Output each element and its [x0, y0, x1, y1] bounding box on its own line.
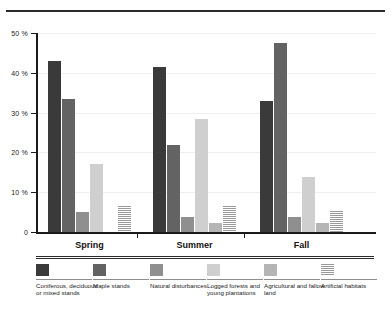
- x-axis-label-spring: Spring: [75, 240, 104, 250]
- y-tick-label-30: 30 %: [11, 110, 28, 117]
- legend-label: Artificial habitats: [321, 282, 383, 289]
- legend-item[interactable]: Coniferous, deciduous or mixed stands: [36, 264, 98, 297]
- y-axis-line: [36, 33, 38, 232]
- y-tick-label-20: 20 %: [11, 149, 28, 156]
- bar: [330, 211, 343, 232]
- bar: [223, 206, 236, 232]
- legend-swatch-icon: [150, 264, 163, 276]
- y-tick-20: [31, 152, 36, 153]
- bar: [62, 99, 75, 232]
- y-tick-label-50: 50 %: [11, 30, 28, 37]
- x-axis-group-separator: [137, 232, 138, 238]
- legend-label: Logged forests and young plantations: [207, 282, 269, 297]
- gridline-30: [38, 113, 376, 114]
- y-tick-label-0: 0: [24, 229, 28, 236]
- bar: [118, 206, 131, 232]
- bar: [76, 212, 89, 232]
- gridline-40: [38, 73, 376, 74]
- legend-swatch-icon: [264, 264, 277, 276]
- legend-swatch-icon: [207, 264, 220, 276]
- y-tick-50: [31, 33, 36, 34]
- y-tick-label-40: 40 %: [11, 70, 28, 77]
- bar: [209, 223, 222, 232]
- bar: [260, 101, 273, 232]
- x-axis-label-summer: Summer: [176, 240, 212, 250]
- bar: [167, 145, 180, 232]
- legend-underline: [36, 279, 92, 280]
- bar-chart-figure: 010 %20 %30 %40 %50 % SpringSummerFall C…: [0, 0, 391, 323]
- x-axis-line: [36, 232, 376, 234]
- legend-item[interactable]: Artificial habitats: [321, 264, 383, 289]
- gridline-50: [38, 33, 376, 34]
- legend-label: Maple stands: [93, 282, 155, 289]
- y-tick-label-10: 10 %: [11, 189, 28, 196]
- legend-swatch-icon: [93, 264, 106, 276]
- legend-item[interactable]: Agricultural and fallow land: [264, 264, 326, 297]
- bar: [302, 177, 315, 232]
- legend-swatch-icon: [36, 264, 49, 276]
- legend-item[interactable]: Maple stands: [93, 264, 155, 289]
- legend-item[interactable]: Natural disturbances: [150, 264, 212, 289]
- bar: [274, 43, 287, 232]
- bar: [48, 61, 61, 232]
- legend-underline: [93, 279, 149, 280]
- legend-label: Coniferous, deciduous or mixed stands: [36, 282, 98, 297]
- legend-underline: [321, 279, 377, 280]
- legend-divider-rule-top: [36, 256, 374, 257]
- bar: [288, 217, 301, 232]
- bar: [181, 217, 194, 232]
- plot-area: 010 %20 %30 %40 %50 % SpringSummerFall: [36, 33, 376, 232]
- legend-label: Agricultural and fallow land: [264, 282, 326, 297]
- legend-swatch-icon: [321, 264, 334, 276]
- bar: [316, 223, 329, 232]
- y-tick-10: [31, 192, 36, 193]
- legend-item[interactable]: Logged forests and young plantations: [207, 264, 269, 297]
- y-tick-30: [31, 113, 36, 114]
- y-tick-40: [31, 73, 36, 74]
- legend-underline: [150, 279, 206, 280]
- bar: [195, 119, 208, 232]
- top-divider-rule: [6, 10, 385, 12]
- legend-label: Natural disturbances: [150, 282, 212, 289]
- bar: [153, 67, 166, 232]
- x-axis-label-fall: Fall: [294, 240, 310, 250]
- y-tick-0: [31, 232, 36, 233]
- bar: [90, 164, 103, 232]
- legend-underline: [207, 279, 263, 280]
- legend-divider-rule-bottom: [36, 258, 374, 259]
- x-axis-group-separator: [244, 232, 245, 238]
- legend-underline: [264, 279, 320, 280]
